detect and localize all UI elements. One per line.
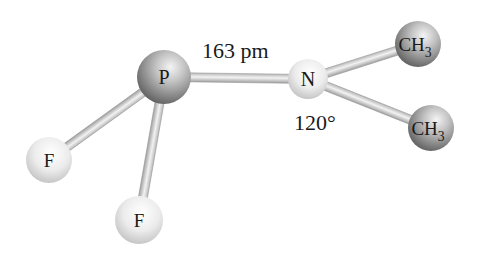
atom-label: F [44,150,55,171]
molecule-diagram: PNCH3CH3FF 163 pm 120° [0,0,478,255]
atom-p: P [137,50,191,104]
atom-n: N [288,59,328,99]
atom-label: P [158,66,169,88]
bonds [46,40,432,221]
bond-length-label: 163 pm [202,38,269,63]
atom-f1: F [26,137,72,183]
bond-angle-label: 120° [294,110,336,135]
atom-c1: CH3 [395,21,441,67]
atom-f2: F [115,196,163,244]
atom-label: F [134,210,145,231]
atom-label: N [301,68,315,90]
atom-c2: CH3 [408,105,454,151]
